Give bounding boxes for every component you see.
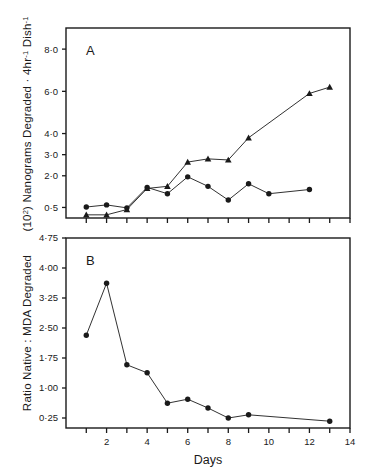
- y-tick-label: 1·75: [39, 352, 58, 363]
- y-tick-label: 2·0: [44, 170, 58, 181]
- y-title-mid: ) Nanograms Degraded · 4hr: [21, 58, 33, 210]
- data-point-circle: [104, 202, 109, 207]
- panel-b-frame: [66, 238, 350, 428]
- data-point-circle: [185, 397, 190, 402]
- y-tick-label: 0·5: [44, 202, 58, 213]
- panel-a-y-ticklabels: 0·52·03·04·06·08·0: [44, 44, 58, 213]
- data-point-circle: [84, 333, 89, 338]
- data-point-circle: [226, 415, 231, 420]
- y-tick-label: 3·0: [44, 149, 58, 160]
- panel-a-label: A: [86, 43, 95, 58]
- y-title-sup3: -1: [21, 16, 30, 23]
- y-tick-label: 0·25: [39, 412, 58, 423]
- data-point-circle: [226, 197, 231, 202]
- panel-b: B 0·251·001·752·503·254·004·75 246810121…: [21, 232, 355, 467]
- x-tick-label: 4: [144, 436, 149, 447]
- svg-text:(102) Nanograms Degraded · 4hr: (102) Nanograms Degraded · 4hr-1 Dish-1: [21, 16, 34, 231]
- y-tick-label: 3·25: [39, 292, 58, 303]
- x-tick-label: 2: [104, 436, 109, 447]
- data-point-circle: [327, 419, 332, 424]
- y-tick-label: 4·75: [39, 232, 58, 243]
- x-tick-label: 6: [185, 436, 190, 447]
- data-point-circle: [205, 184, 210, 189]
- panel-b-x-ticklabels: 2468101214: [104, 436, 355, 447]
- y-tick-label: 1·00: [39, 382, 58, 393]
- x-tick-label: 10: [264, 436, 275, 447]
- series-line-ratio: [86, 283, 329, 421]
- y-tick-label: 2·50: [39, 322, 58, 333]
- panel-b-series-group: [84, 281, 333, 424]
- data-point-circle: [144, 370, 149, 375]
- figure-canvas: A 0·52·03·04·06·08·0 (102) Nanograms Deg…: [0, 0, 368, 476]
- panel-a-series-group: [83, 84, 333, 218]
- data-point-triangle: [245, 134, 252, 140]
- data-point-circle: [165, 401, 170, 406]
- data-point-circle: [307, 187, 312, 192]
- series-line-native: [86, 177, 309, 208]
- y-tick-label: 4·00: [39, 262, 58, 273]
- data-point-triangle: [326, 84, 333, 90]
- panel-a: A 0·52·03·04·06·08·0 (102) Nanograms Deg…: [21, 16, 351, 231]
- y-title-mid2: Dish: [21, 23, 33, 50]
- x-tick-label: 14: [345, 436, 356, 447]
- data-point-circle: [84, 204, 89, 209]
- y-tick-label: 6·0: [44, 86, 58, 97]
- y-title-sup2: -1: [21, 51, 30, 58]
- panel-b-y-ticklabels: 0·251·001·752·503·254·004·75: [39, 232, 58, 423]
- data-point-circle: [205, 405, 210, 410]
- svg-text:Ratio Native : MDA Degraded: Ratio Native : MDA Degraded: [21, 255, 33, 411]
- panel-b-label: B: [86, 253, 95, 268]
- panel-a-y-axis-title: (102) Nanograms Degraded · 4hr-1 Dish-1: [21, 16, 34, 231]
- panel-b-x-ticks: [86, 428, 350, 433]
- y-tick-label: 4·0: [44, 128, 58, 139]
- data-point-circle: [246, 181, 251, 186]
- x-tick-label: 8: [226, 436, 231, 447]
- x-tick-label: 12: [304, 436, 315, 447]
- series-line-MDA-modified: [86, 87, 329, 215]
- data-point-circle: [246, 412, 251, 417]
- y-title-prefix: (10: [21, 214, 33, 231]
- data-point-circle: [165, 191, 170, 196]
- data-point-circle: [185, 174, 190, 179]
- panel-a-x-ticks: [86, 218, 350, 223]
- data-point-circle: [124, 362, 129, 367]
- panel-b-y-axis-title: Ratio Native : MDA Degraded: [21, 255, 33, 411]
- data-point-circle: [104, 281, 109, 286]
- y-tick-label: 8·0: [44, 44, 58, 55]
- x-axis-title: Days: [194, 453, 222, 467]
- data-point-circle: [266, 191, 271, 196]
